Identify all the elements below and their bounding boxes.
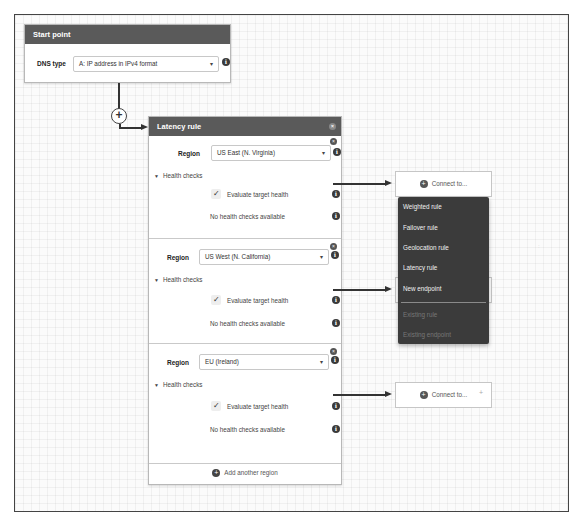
- faint-marker: :: [538, 243, 540, 249]
- region-block: × Region EU (Ireland) ▾ i ▼Health checks…: [149, 344, 341, 464]
- faint-marker: :: [538, 405, 540, 411]
- connect-to-button[interactable]: +Connect to... +: [395, 382, 492, 408]
- menu-item-weighted-rule[interactable]: Weighted rule: [403, 203, 442, 210]
- connect-to-menu: Weighted rule Failover rule Geolocation …: [398, 197, 489, 344]
- start-point-title: Start point: [25, 25, 230, 44]
- info-icon[interactable]: i: [331, 251, 339, 259]
- flow-canvas[interactable]: Start point DNS type A: IP address in IP…: [14, 14, 569, 512]
- info-icon[interactable]: i: [332, 190, 340, 198]
- connector-line: [333, 289, 385, 291]
- region-select[interactable]: US East (N. Virginia) ▾: [211, 145, 331, 161]
- connector-line: [119, 127, 141, 129]
- menu-item-new-endpoint[interactable]: New endpoint: [403, 285, 442, 292]
- dns-type-select[interactable]: A: IP address in IPv4 format ▾: [73, 56, 219, 72]
- no-health-checks-text: No health checks available: [210, 426, 285, 433]
- chevron-down-icon: ▾: [322, 146, 325, 160]
- info-icon[interactable]: i: [332, 296, 340, 304]
- remove-region-icon[interactable]: ×: [330, 348, 337, 355]
- health-checks-toggle[interactable]: ▼Health checks: [154, 276, 203, 283]
- region-label: Region: [167, 359, 189, 366]
- no-health-checks-text: No health checks available: [210, 320, 285, 327]
- health-checks-toggle[interactable]: ▼Health checks: [154, 381, 203, 388]
- plus-icon: +: [420, 391, 428, 399]
- no-health-checks-text: No health checks available: [210, 213, 285, 220]
- region-select[interactable]: US West (N. California) ▾: [199, 249, 329, 265]
- caret-down-icon: ▼: [154, 173, 159, 179]
- region-label: Region: [167, 254, 189, 261]
- menu-item-existing-rule: Existing rule: [403, 311, 437, 318]
- region-select[interactable]: EU (Ireland) ▾: [199, 354, 329, 370]
- region-label: Region: [178, 150, 200, 157]
- info-icon[interactable]: i: [332, 212, 340, 220]
- plus-icon: +: [212, 469, 220, 477]
- remove-region-icon[interactable]: ×: [330, 138, 337, 145]
- connect-to-button[interactable]: +Connect to...: [395, 171, 492, 197]
- info-icon[interactable]: i: [332, 319, 340, 327]
- info-icon[interactable]: i: [332, 425, 340, 433]
- dns-type-label: DNS type: [37, 60, 66, 67]
- health-checks-toggle[interactable]: ▼Health checks: [154, 172, 203, 179]
- menu-divider: [401, 302, 486, 303]
- region-block: × Region US East (N. Virginia) ▾ i ▼Heal…: [149, 136, 341, 239]
- plus-icon: +: [420, 180, 428, 188]
- add-another-region-button[interactable]: +Add another region: [149, 462, 341, 484]
- evaluate-target-health-label: Evaluate target health: [227, 191, 288, 198]
- connector-line: [333, 394, 385, 396]
- evaluate-target-health-label: Evaluate target health: [227, 297, 288, 304]
- arrow-icon: [385, 180, 392, 186]
- remove-region-icon[interactable]: ×: [330, 243, 337, 250]
- chevron-down-icon: +: [479, 381, 483, 405]
- dns-type-value: A: IP address in IPv4 format: [79, 60, 157, 67]
- chevron-down-icon: ▾: [320, 250, 323, 264]
- close-icon[interactable]: ×: [329, 123, 336, 130]
- arrow-icon: [141, 124, 148, 130]
- info-icon[interactable]: i: [331, 356, 339, 364]
- evaluate-target-health-checkbox[interactable]: ✓: [211, 295, 221, 305]
- latency-rule-title: Latency rule ×: [149, 117, 341, 136]
- info-icon[interactable]: i: [333, 148, 341, 156]
- connector-line: [118, 83, 120, 109]
- info-icon[interactable]: i: [332, 402, 340, 410]
- chevron-down-icon: ▾: [320, 355, 323, 369]
- add-rule-button[interactable]: +: [111, 108, 127, 124]
- arrow-icon: [385, 286, 392, 292]
- evaluate-target-health-checkbox[interactable]: ✓: [211, 401, 221, 411]
- chevron-down-icon: ▾: [210, 57, 213, 71]
- caret-down-icon: ▼: [154, 277, 159, 283]
- evaluate-target-health-label: Evaluate target health: [227, 403, 288, 410]
- menu-item-latency-rule[interactable]: Latency rule: [403, 264, 437, 271]
- evaluate-target-health-checkbox[interactable]: ✓: [211, 189, 221, 199]
- info-icon[interactable]: i: [222, 58, 230, 66]
- menu-item-existing-endpoint: Existing endpoint: [403, 331, 451, 338]
- latency-rule-panel: Latency rule × × Region US East (N. Virg…: [148, 116, 342, 485]
- region-block: × Region US West (N. California) ▾ i ▼He…: [149, 239, 341, 344]
- arrow-icon: [385, 391, 392, 397]
- menu-item-geolocation-rule[interactable]: Geolocation rule: [403, 244, 449, 251]
- start-point-panel: Start point DNS type A: IP address in IP…: [24, 24, 231, 83]
- connector-line: [333, 183, 385, 185]
- caret-down-icon: ▼: [154, 382, 159, 388]
- menu-item-failover-rule[interactable]: Failover rule: [403, 224, 438, 231]
